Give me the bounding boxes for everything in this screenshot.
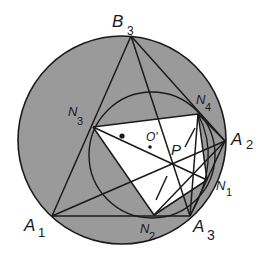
label-A1: A 1 xyxy=(23,216,45,240)
label-N1: N 1 xyxy=(216,178,232,198)
svg-text:2: 2 xyxy=(246,137,253,152)
point-dot xyxy=(119,133,124,138)
svg-text:A: A xyxy=(192,217,204,236)
svg-text:A: A xyxy=(23,216,35,235)
svg-text:1: 1 xyxy=(38,225,45,240)
label-A2: A 2 xyxy=(230,130,253,152)
svg-text:4: 4 xyxy=(205,101,211,113)
svg-text:A: A xyxy=(230,130,242,149)
svg-text:2: 2 xyxy=(149,230,155,242)
svg-text:3: 3 xyxy=(207,227,215,243)
label-P: P xyxy=(171,141,181,158)
geometry-diagram: B 3 N 3 N 4 A 2 N 1 A 3 N 2 A 1 P O' xyxy=(0,0,268,260)
point-o-prime xyxy=(148,145,152,149)
label-A3: A 3 xyxy=(192,217,215,243)
label-O-prime: O' xyxy=(146,130,158,144)
svg-text:N: N xyxy=(216,178,226,193)
svg-text:1: 1 xyxy=(226,186,232,198)
svg-text:B: B xyxy=(112,12,123,31)
label-B3: B 3 xyxy=(112,12,134,38)
svg-text:3: 3 xyxy=(127,24,134,38)
svg-text:3: 3 xyxy=(77,115,83,127)
